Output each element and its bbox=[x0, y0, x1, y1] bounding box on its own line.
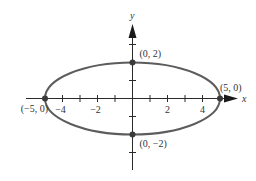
x-tick-label: 2 bbox=[165, 104, 170, 115]
point-marker bbox=[217, 96, 223, 102]
point-label: (5, 0) bbox=[220, 82, 242, 94]
point-marker bbox=[130, 60, 136, 66]
x-tick-label: −4 bbox=[55, 104, 66, 115]
point-label: (−5, 0) bbox=[21, 103, 48, 115]
x-tick-label: −2 bbox=[90, 104, 101, 115]
point-label: (0, 2) bbox=[140, 48, 162, 60]
x-tick-label: 4 bbox=[200, 104, 205, 115]
x-axis-label: x bbox=[241, 93, 247, 104]
plot-canvas: x y −4−224 (0, 2)(0, −2)(5, 0)(−5, 0) bbox=[0, 0, 256, 181]
point-label: (0, −2) bbox=[140, 138, 167, 150]
x-axis-arrow-icon bbox=[224, 95, 238, 103]
ellipse-diagram: x y −4−224 (0, 2)(0, −2)(5, 0)(−5, 0) bbox=[0, 0, 256, 181]
x-tick-labels: −4−224 bbox=[55, 104, 205, 115]
point-marker bbox=[42, 96, 48, 102]
y-axis-arrow-icon bbox=[129, 24, 137, 38]
point-marker bbox=[130, 132, 136, 138]
y-axis-label: y bbox=[129, 10, 135, 21]
